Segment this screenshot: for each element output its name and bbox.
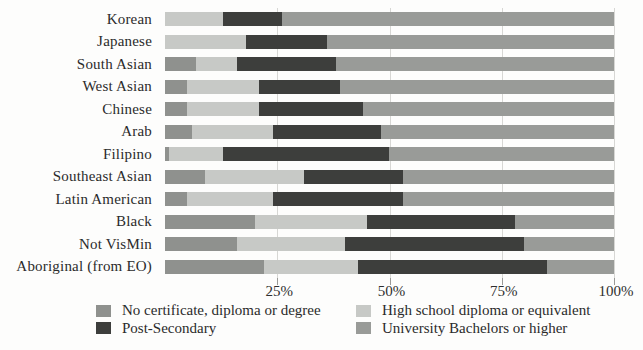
bar-segment (282, 12, 614, 26)
bar-segment (264, 260, 358, 274)
bar-segment (389, 147, 614, 161)
stacked-bar (165, 80, 614, 94)
stacked-bar (165, 215, 614, 229)
chart-row: Latin American (0, 188, 643, 211)
chart-row: Black (0, 211, 643, 234)
bar-segment (327, 35, 614, 49)
legend-item: University Bachelors or higher (356, 320, 590, 338)
bar-segment (165, 57, 196, 71)
bar-segment (165, 12, 223, 26)
axis-tick-label: 25% (266, 283, 294, 300)
axis-tick-label: 50% (378, 283, 406, 300)
bar-segment (237, 237, 345, 251)
bar-segment (187, 192, 272, 206)
bar-segment (547, 260, 614, 274)
bar-segment (363, 102, 614, 116)
bar-segment (165, 192, 187, 206)
legend-column-right: High school diploma or equivalentUnivers… (356, 302, 590, 337)
axis-tick (614, 278, 615, 285)
bar-segment (187, 102, 259, 116)
legend-item: No certificate, diploma or degree (96, 302, 321, 320)
bar-segment (345, 237, 525, 251)
chart-row: Arab (0, 121, 643, 144)
legend-label: University Bachelors or higher (382, 320, 567, 337)
bar-segment (169, 147, 223, 161)
stacked-bar (165, 147, 614, 161)
axis-tick-label: 100% (599, 283, 634, 300)
chart-row: South Asian (0, 53, 643, 76)
stacked-bar (165, 57, 614, 71)
stacked-bar (165, 12, 614, 26)
category-label: Southeast Asian (0, 168, 152, 185)
bar-segment (336, 57, 614, 71)
legend-swatch-icon (96, 305, 111, 317)
category-label: Latin American (0, 191, 152, 208)
legend-label: No certificate, diploma or degree (122, 302, 321, 319)
category-label: Korean (0, 11, 152, 28)
category-label: Aboriginal (from EO) (0, 258, 152, 275)
category-label: Japanese (0, 33, 152, 50)
stacked-bar (165, 170, 614, 184)
bar-segment (273, 192, 403, 206)
chart-row: Southeast Asian (0, 166, 643, 189)
bar-segment (515, 215, 614, 229)
bar-segment (165, 125, 192, 139)
stacked-bar (165, 192, 614, 206)
category-label: South Asian (0, 56, 152, 73)
bar-segment (196, 57, 236, 71)
chart-row: West Asian (0, 76, 643, 99)
stacked-bar (165, 125, 614, 139)
legend-column-left: No certificate, diploma or degreePost-Se… (96, 302, 321, 337)
axis-tick-label: 75% (490, 283, 518, 300)
legend-label: High school diploma or equivalent (382, 302, 590, 319)
bar-segment (403, 192, 614, 206)
category-label: Not VisMin (0, 236, 152, 253)
stacked-bar (165, 237, 614, 251)
chart-row: Filipino (0, 143, 643, 166)
bar-segment (246, 35, 327, 49)
bar-segment (273, 125, 381, 139)
legend-swatch-icon (356, 322, 371, 334)
bar-segment (524, 237, 614, 251)
bar-segment (165, 215, 255, 229)
category-label: Filipino (0, 146, 152, 163)
category-label: West Asian (0, 78, 152, 95)
bar-segment (187, 80, 259, 94)
bar-segment (259, 102, 362, 116)
category-label: Black (0, 213, 152, 230)
bar-segment (223, 147, 389, 161)
bar-segment (358, 260, 547, 274)
legend-swatch-icon (96, 322, 111, 334)
bar-segment (205, 170, 304, 184)
bar-segment (165, 260, 264, 274)
stacked-bar (165, 102, 614, 116)
bar-rows: KoreanJapaneseSouth AsianWest AsianChine… (0, 8, 643, 278)
bar-segment (381, 125, 614, 139)
stacked-bar (165, 35, 614, 49)
category-label: Chinese (0, 101, 152, 118)
bar-segment (237, 57, 336, 71)
chart-row: Korean (0, 8, 643, 31)
bar-segment (403, 170, 614, 184)
axis-tick (277, 278, 278, 285)
bar-segment (192, 125, 273, 139)
legend-swatch-icon (356, 305, 371, 317)
axis-tick (390, 278, 391, 285)
bar-segment (259, 80, 340, 94)
chart-row: Japanese (0, 31, 643, 54)
bar-segment (367, 215, 515, 229)
chart-row: Not VisMin (0, 233, 643, 256)
bar-segment (165, 102, 187, 116)
legend-item: High school diploma or equivalent (356, 302, 590, 320)
chart-row: Aboriginal (from EO) (0, 256, 643, 279)
legend-item: Post-Secondary (96, 320, 321, 338)
axis-tick (502, 278, 503, 285)
chart-row: Chinese (0, 98, 643, 121)
bar-segment (304, 170, 403, 184)
bar-segment (165, 80, 187, 94)
bar-segment (255, 215, 367, 229)
bar-segment (165, 170, 205, 184)
bar-segment (165, 237, 237, 251)
bar-segment (340, 80, 614, 94)
bar-segment (223, 12, 281, 26)
